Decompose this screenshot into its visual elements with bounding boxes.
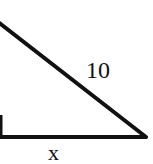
base-label: x: [48, 142, 59, 164]
right-triangle-diagram: 10 x: [0, 0, 153, 164]
triangle-svg: [0, 0, 153, 164]
hypotenuse-label: 10: [86, 58, 110, 82]
hypotenuse-line: [0, 22, 146, 137]
